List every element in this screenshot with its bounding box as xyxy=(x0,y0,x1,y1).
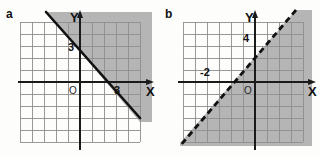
panel-a-plot: Y X 3 3 O xyxy=(0,0,160,157)
panel-b-shaded-region xyxy=(180,10,312,146)
panel-a-y-axis-label: Y xyxy=(70,10,79,25)
panel-b-x-intercept-label: -2 xyxy=(200,66,210,78)
panel-b-x-axis-label: X xyxy=(308,84,317,99)
panel-a-origin-label: O xyxy=(69,85,77,96)
panel-a-y-intercept-label: 3 xyxy=(68,41,74,53)
panel-b-origin-label: O xyxy=(244,85,252,96)
panel-a-x-intercept-label: 3 xyxy=(114,84,120,96)
inequality-graph-figure: a xyxy=(0,0,320,157)
panel-b-y-intercept-label: 4 xyxy=(243,32,250,44)
panel-a-x-axis-label: X xyxy=(146,84,155,99)
panel-b-y-axis-label: Y xyxy=(245,10,254,25)
panel-b-plot: Y X 4 -2 O xyxy=(160,0,320,157)
panel-b: b xyxy=(160,0,320,157)
panel-a: a xyxy=(0,0,160,157)
